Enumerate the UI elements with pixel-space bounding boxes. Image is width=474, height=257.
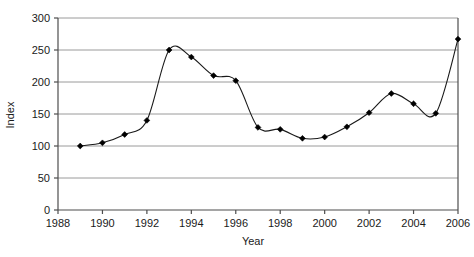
x-tick-label: 1992 (135, 217, 159, 229)
x-tick-label: 1994 (179, 217, 203, 229)
y-tick-label: 200 (32, 76, 50, 88)
y-tick-label: 50 (38, 172, 50, 184)
x-tick-label: 2002 (357, 217, 381, 229)
x-tick-label: 1996 (224, 217, 248, 229)
y-tick-label: 100 (32, 140, 50, 152)
y-axis-title: Index (4, 101, 16, 128)
x-tick-label: 2000 (312, 217, 336, 229)
y-tick-label: 0 (44, 204, 50, 216)
x-tick-label: 2004 (401, 217, 425, 229)
line-chart: 050100150200250300 198819901992199419961… (0, 0, 474, 257)
x-tick-label: 1988 (46, 217, 70, 229)
y-tick-label: 250 (32, 44, 50, 56)
x-tick-label: 1990 (90, 217, 114, 229)
y-tick-label: 300 (32, 12, 50, 24)
y-tick-label: 150 (32, 108, 50, 120)
x-axis-title: Year (242, 235, 265, 247)
x-tick-label: 1998 (268, 217, 292, 229)
x-tick-label: 2006 (446, 217, 470, 229)
chart-container: 050100150200250300 198819901992199419961… (0, 0, 474, 257)
